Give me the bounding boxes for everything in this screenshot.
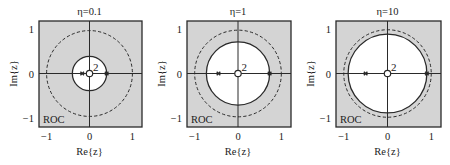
y-tick-label: 1	[326, 24, 331, 35]
x-tick-label: 0	[385, 131, 390, 142]
y-axis-label: Im{z}	[156, 60, 167, 86]
roc-label: ROC	[43, 114, 65, 125]
x-tick-label: 1	[429, 131, 434, 142]
roc-label: ROC	[340, 114, 362, 125]
y-tick-label: 1	[177, 24, 182, 35]
zero-multiplicity-label: 2	[93, 61, 99, 73]
roc-label: ROC	[191, 114, 213, 125]
x-axis-label: Re{z}	[374, 146, 400, 157]
y-tick-label: 0	[29, 69, 34, 80]
zero-marker	[384, 70, 390, 76]
x-axis-label: Re{z}	[76, 146, 102, 157]
zero-multiplicity-label: 2	[242, 61, 248, 73]
pole-zero-figure: 2ROCη=0.1−10110−1Re{z}Im{z}2ROCη=1−10110…	[0, 0, 450, 165]
zero-marker	[235, 70, 241, 76]
x-tick-label: 0	[235, 131, 240, 142]
x-axis-label: Re{z}	[225, 146, 251, 157]
plot-title: η=0.1	[77, 6, 102, 17]
plot-panel-2: 2ROCη=1−10110−1Re{z}Im{z}	[156, 6, 291, 157]
plot-title: η=10	[377, 6, 399, 17]
y-axis-label: Im{z}	[305, 60, 316, 86]
zero-multiplicity-label: 2	[391, 61, 397, 73]
plot-title: η=1	[230, 6, 247, 17]
plot-panel-1: 2ROCη=0.1−10110−1Re{z}Im{z}	[8, 6, 142, 157]
y-tick-label: 0	[177, 69, 182, 80]
y-axis-label: Im{z}	[8, 60, 19, 86]
x-tick-label: 1	[279, 131, 284, 142]
zero-marker	[86, 70, 92, 76]
x-tick-label: 1	[130, 131, 135, 142]
plot-panel-3: 2ROCη=10−10110−1Re{z}Im{z}	[305, 6, 441, 157]
x-tick-label: 0	[87, 131, 92, 142]
x-tick-label: −1	[189, 131, 200, 142]
y-tick-label: −1	[23, 113, 34, 124]
y-tick-label: 0	[326, 69, 331, 80]
y-tick-label: 1	[29, 24, 34, 35]
y-tick-label: −1	[320, 113, 331, 124]
y-tick-label: −1	[171, 113, 182, 124]
x-tick-label: −1	[338, 131, 349, 142]
x-tick-label: −1	[41, 131, 52, 142]
